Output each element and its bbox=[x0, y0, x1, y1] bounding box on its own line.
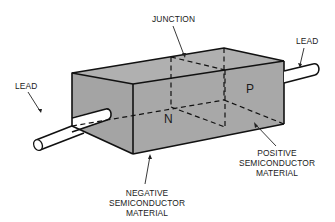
negative-material-label-3: MATERIAL bbox=[126, 208, 168, 218]
right-lead bbox=[284, 64, 319, 83]
negative-material-label-1: NEGATIVE bbox=[126, 188, 169, 198]
positive-material-label-2: SEMICONDUCTOR bbox=[239, 158, 315, 168]
left-lead-label: LEAD bbox=[15, 81, 37, 91]
region-p-label: P bbox=[246, 82, 254, 96]
junction-label: JUNCTION bbox=[152, 14, 195, 24]
positive-material-label-3: MATERIAL bbox=[256, 168, 298, 178]
pn-junction-diagram: N P JUNCTION LEAD LEAD NEGATIVE SEMICOND… bbox=[0, 0, 335, 222]
positive-material-label-1: POSITIVE bbox=[257, 148, 297, 158]
region-n-label: N bbox=[164, 112, 173, 126]
right-lead-label: LEAD bbox=[296, 36, 318, 46]
semiconductor-block bbox=[72, 48, 284, 154]
negative-material-label-2: SEMICONDUCTOR bbox=[109, 198, 185, 208]
